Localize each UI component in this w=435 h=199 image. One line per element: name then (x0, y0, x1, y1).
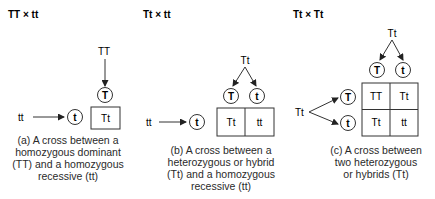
grid-cell: Tt (372, 117, 381, 128)
svg-text:(Tt) and a homozygous: (Tt) and a homozygous (167, 168, 275, 180)
panel-a-title: TT × tt (8, 9, 39, 20)
panel-b-top-gamete: T (224, 89, 239, 104)
panel-c-caption: (c) A cross between two heterozygous or … (330, 144, 422, 180)
panel-b: Tt × tt Tt T t tt t Tt tt (b) A cross be… (143, 9, 275, 192)
svg-text:(c) A cross between: (c) A cross between (330, 144, 422, 156)
svg-text:homozygous dominant: homozygous dominant (15, 146, 121, 158)
panel-a-caption: (a) A cross between a homozygous dominan… (12, 134, 123, 182)
panel-b-top-parent: Tt (241, 55, 250, 66)
panel-a-punnett-grid: Tt (91, 107, 120, 129)
panel-b-title: Tt × tt (143, 9, 171, 20)
svg-text:T: T (374, 65, 380, 76)
grid-cell: Tt (227, 117, 236, 128)
arrow-branch-icon (380, 40, 392, 60)
panel-c-top-gamete: T (370, 63, 385, 78)
panel-c-left-gamete: T (341, 90, 356, 105)
panel-a-top-gamete: T (98, 88, 113, 103)
panel-c-left-parent: Tt (295, 107, 304, 118)
panel-c-title: Tt × Tt (293, 9, 324, 20)
grid-cell: Tt (101, 113, 110, 124)
panel-a-left-parent: tt (18, 112, 24, 123)
grid-cell: tt (257, 117, 263, 128)
panel-b-left-gamete: t (190, 115, 205, 130)
svg-text:T: T (102, 90, 108, 101)
panel-c: Tt × Tt Tt T t Tt T t TT Tt Tt (293, 9, 422, 180)
panel-a: TT × tt TT T tt t Tt (a) A cross between… (8, 9, 124, 182)
svg-text:(b) A cross between a: (b) A cross between a (171, 144, 272, 156)
punnett-square-diagram: TT × tt TT T tt t Tt (a) A cross between… (0, 0, 435, 199)
arrow-branch-icon (233, 67, 245, 86)
svg-text:or hybrids (Tt): or hybrids (Tt) (343, 168, 408, 180)
panel-c-left-gamete: t (341, 116, 356, 131)
panel-a-left-gamete: t (68, 110, 83, 125)
panel-c-top-parent: Tt (388, 28, 397, 39)
svg-text:recessive (tt): recessive (tt) (38, 170, 98, 182)
svg-text:T: T (228, 91, 234, 102)
panel-c-punnett-grid: TT Tt Tt tt (362, 83, 418, 136)
arrow-branch-icon (309, 98, 338, 112)
panel-b-punnett-grid: Tt tt (217, 108, 274, 136)
svg-text:two heterozygous: two heterozygous (335, 156, 417, 168)
panel-b-top-gamete: t (250, 89, 265, 104)
grid-cell: TT (370, 91, 382, 102)
svg-text:(TT) and a homozygous: (TT) and a homozygous (12, 158, 123, 170)
panel-c-top-gamete: t (396, 63, 411, 78)
panel-b-caption: (b) A cross between a heterozygous or hy… (167, 144, 275, 192)
svg-text:heterozygous or hybrid: heterozygous or hybrid (168, 156, 275, 168)
panel-a-top-parent: TT (98, 46, 110, 57)
svg-text:recessive (tt): recessive (tt) (191, 180, 251, 192)
panel-b-left-parent: tt (146, 117, 152, 128)
grid-cell: Tt (400, 91, 409, 102)
grid-cell: tt (401, 117, 407, 128)
svg-text:T: T (345, 92, 351, 103)
arrow-branch-icon (309, 112, 338, 124)
arrow-branch-icon (392, 40, 403, 60)
svg-text:(a) A cross between a: (a) A cross between a (18, 134, 119, 146)
arrow-branch-icon (245, 67, 256, 86)
